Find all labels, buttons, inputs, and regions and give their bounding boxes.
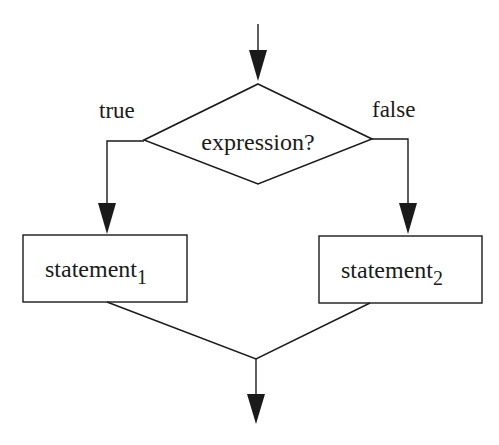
arrowhead-icon	[249, 50, 267, 81]
false-branch: false	[372, 97, 417, 234]
merge-connector	[107, 302, 370, 424]
true-label: true	[99, 98, 135, 123]
statement-1-node: statement1	[23, 235, 187, 302]
decision-label: expression?	[201, 129, 314, 155]
decision-node: expression?	[144, 84, 372, 184]
arrowhead-icon	[399, 203, 417, 234]
false-label: false	[372, 97, 415, 122]
true-branch: true	[98, 98, 144, 234]
flowchart-svg: expression? true false statement1 statem…	[0, 0, 499, 445]
arrowhead-icon	[98, 203, 116, 234]
statement-2-node: statement2	[319, 236, 482, 303]
entry-arrow	[249, 24, 267, 81]
arrowhead-icon	[247, 394, 265, 424]
flowchart-canvas: expression? true false statement1 statem…	[0, 0, 499, 445]
